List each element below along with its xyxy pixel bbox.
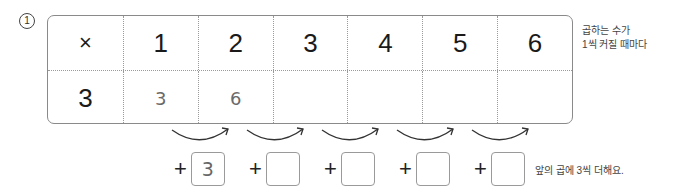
problem-number: 1 bbox=[19, 13, 35, 29]
multiplier-cell: 2 bbox=[198, 16, 273, 70]
answer-cell[interactable]: 3 bbox=[123, 71, 198, 124]
multiplier-cell: 4 bbox=[347, 16, 422, 70]
answer-cell[interactable] bbox=[497, 71, 572, 124]
hint-text: 앞의 곱에 3씩 더해요. bbox=[535, 162, 624, 177]
multiplication-table: × 1 2 3 4 5 6 3 3 6 bbox=[47, 15, 573, 124]
curved-arrow-icon bbox=[172, 129, 228, 140]
plus-sign: + bbox=[324, 156, 337, 182]
plus-sign: + bbox=[399, 156, 412, 182]
increment-box[interactable] bbox=[266, 152, 300, 186]
curved-arrow-icon bbox=[397, 129, 453, 140]
plus-sign: + bbox=[249, 156, 262, 182]
increment-box[interactable]: 3 bbox=[191, 152, 225, 186]
plus-sign: + bbox=[474, 156, 487, 182]
side-note: 곱하는 수가 1씩 커질 때마다 bbox=[582, 24, 647, 52]
curved-arrow-icons bbox=[0, 124, 674, 154]
plus-sign: + bbox=[174, 156, 187, 182]
curved-arrow-icon bbox=[247, 129, 303, 140]
side-note-line: 1씩 커질 때마다 bbox=[582, 38, 647, 52]
increment-group: + bbox=[324, 151, 375, 187]
answer-cell[interactable] bbox=[273, 71, 348, 124]
multiplier-cell: 5 bbox=[422, 16, 497, 70]
increment-box[interactable] bbox=[416, 152, 450, 186]
curved-arrow-icon bbox=[472, 129, 528, 140]
answer-cell[interactable]: 6 bbox=[198, 71, 273, 124]
increment-box[interactable] bbox=[491, 152, 525, 186]
curved-arrow-icon bbox=[322, 129, 378, 140]
multiplicand-cell: 3 bbox=[48, 71, 123, 124]
operator-cell: × bbox=[48, 16, 123, 70]
multiplier-cell: 1 bbox=[123, 16, 198, 70]
increment-group: + bbox=[249, 151, 300, 187]
header-row: × 1 2 3 4 5 6 bbox=[48, 16, 572, 70]
answer-cell[interactable] bbox=[422, 71, 497, 124]
side-note-line: 곱하는 수가 bbox=[582, 24, 647, 38]
increment-box[interactable] bbox=[341, 152, 375, 186]
answer-cell[interactable] bbox=[347, 71, 422, 124]
increment-group: + 3 bbox=[174, 151, 225, 187]
multiplier-cell: 3 bbox=[273, 16, 348, 70]
multiplier-cell: 6 bbox=[497, 16, 572, 70]
answer-row: 3 3 6 bbox=[48, 70, 572, 124]
increment-group: + bbox=[474, 151, 525, 187]
increment-group: + bbox=[399, 151, 450, 187]
